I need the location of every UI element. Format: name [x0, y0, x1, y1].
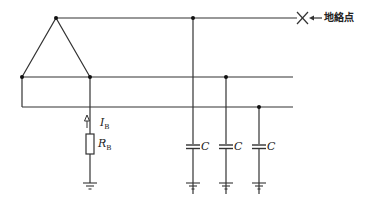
capacitor-label: C [201, 141, 209, 152]
capacitor-label: C [267, 141, 275, 152]
circuit-diagram [0, 0, 375, 198]
ground-icon [83, 183, 266, 189]
resistor-label: RB [98, 138, 111, 152]
current-arrow-icon [85, 115, 90, 128]
arrow-left-icon [309, 16, 314, 21]
capacitor-label: C [234, 141, 242, 152]
junction-dot [20, 16, 261, 109]
capacitor-icon [185, 144, 268, 149]
resistor-icon [86, 134, 94, 154]
fault-point-label: 地絡点 [324, 13, 354, 23]
delta-winding [22, 18, 90, 77]
current-label: IB [100, 117, 110, 131]
